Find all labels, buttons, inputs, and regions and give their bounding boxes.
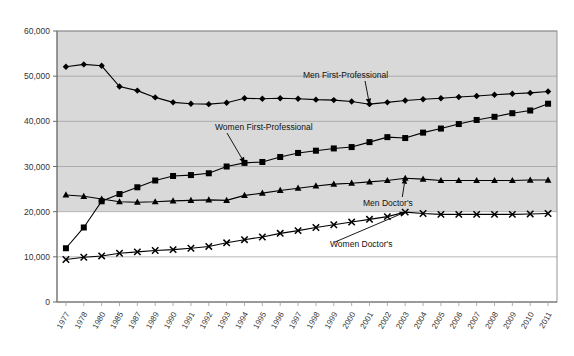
data-point-square (259, 159, 265, 165)
data-point-square (188, 172, 194, 178)
x-axis-tick-label: 2000 (341, 310, 358, 330)
x-axis-tick-label: 2002 (376, 310, 393, 330)
x-axis-tick-label: 1987 (126, 310, 143, 330)
annotation-label: Women First-Professional (215, 122, 313, 132)
data-point-square (349, 144, 355, 150)
data-point-square (420, 130, 426, 136)
data-point-square (492, 114, 498, 120)
data-point-square (509, 110, 515, 116)
line-chart: 010,00020,00030,00040,00050,00060,000197… (0, 0, 574, 356)
data-point-square (81, 224, 87, 230)
data-point-square (331, 145, 337, 151)
data-point-square (206, 170, 212, 176)
x-axis-tick-label: 1985 (109, 310, 126, 330)
data-point-square (295, 150, 301, 156)
x-axis-tick-label: 1980 (91, 310, 108, 330)
x-axis-tick-label: 2008 (484, 310, 501, 330)
annotation-label: Men First-Professional (303, 70, 388, 80)
data-point-square (224, 164, 230, 170)
y-axis-tick-label: 10,000 (24, 252, 50, 262)
x-axis-tick-label: 1978 (73, 310, 90, 330)
data-point-square (117, 191, 123, 197)
x-axis-tick-label: 2006 (448, 310, 465, 330)
y-axis-tick-label: 50,000 (24, 71, 50, 81)
x-axis-tick-label: 2007 (466, 310, 483, 330)
data-point-square (152, 178, 158, 184)
y-axis-tick-label: 40,000 (24, 116, 50, 126)
data-point-square (367, 139, 373, 145)
x-axis-tick-label: 1994 (234, 310, 251, 330)
data-point-square (63, 245, 69, 251)
x-axis-tick-label: 1997 (287, 310, 304, 330)
y-axis-tick-label: 30,000 (24, 162, 50, 172)
x-axis-tick-label: 2001 (359, 310, 376, 330)
x-axis-tick-label: 1991 (180, 310, 197, 330)
annotation-label: Men Doctor's (363, 198, 413, 208)
x-axis-tick-label: 1999 (323, 310, 340, 330)
x-axis-tick-label: 2004 (412, 310, 429, 330)
data-point-square (456, 121, 462, 127)
data-point-square (170, 173, 176, 179)
x-axis-tick-label: 1992 (198, 310, 215, 330)
x-axis-tick-label: 2011 (537, 310, 554, 330)
x-axis-tick-label: 1977 (55, 310, 72, 330)
data-point-square (313, 148, 319, 154)
x-axis-tick-label: 1995 (251, 310, 268, 330)
x-axis-tick-label: 1996 (269, 310, 286, 330)
y-axis-tick-label: 60,000 (24, 26, 50, 36)
x-axis-tick-label: 2003 (394, 310, 411, 330)
data-point-square (527, 107, 533, 113)
x-axis-tick-label: 2010 (519, 310, 536, 330)
x-axis-tick-label: 2005 (430, 310, 447, 330)
data-point-square (474, 117, 480, 123)
data-point-square (134, 184, 140, 190)
data-point-square (277, 154, 283, 160)
x-axis-tick-label: 1993 (216, 310, 233, 330)
x-axis-tick-label: 1989 (144, 310, 161, 330)
data-point-square (384, 134, 390, 140)
y-axis-tick-label: 20,000 (24, 207, 50, 217)
x-axis-tick-label: 1998 (305, 310, 322, 330)
data-point-square (438, 126, 444, 132)
data-point-square (402, 135, 408, 141)
y-axis-tick-label: 0 (45, 297, 50, 307)
x-axis-tick-label: 2009 (501, 310, 518, 330)
x-axis-tick-label: 1990 (162, 310, 179, 330)
data-point-square (545, 101, 551, 107)
chart-container: 010,00020,00030,00040,00050,00060,000197… (0, 0, 574, 356)
